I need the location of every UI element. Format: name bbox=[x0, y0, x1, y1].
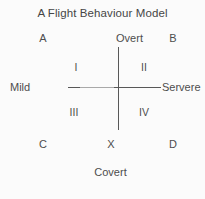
figure-title: A Flight Behaviour Model bbox=[0, 8, 205, 20]
corner-label-b: B bbox=[165, 33, 181, 44]
quadrant-label-i: I bbox=[66, 62, 86, 73]
axis-label-mild: Mild bbox=[10, 82, 30, 93]
horizontal-axis-line bbox=[68, 87, 161, 88]
axis-label-covert: Covert bbox=[8, 167, 205, 178]
corner-label-c: C bbox=[35, 139, 51, 150]
quadrant-label-iv: IV bbox=[134, 107, 154, 118]
axis-label-servere: Servere bbox=[162, 82, 201, 93]
quadrant-label-ii: II bbox=[134, 62, 154, 73]
flight-behaviour-model-figure: A Flight Behaviour Model Overt Covert Mi… bbox=[0, 0, 205, 199]
vertical-axis-line bbox=[118, 47, 119, 130]
quadrant-label-iii: III bbox=[64, 107, 84, 118]
corner-label-a: A bbox=[35, 33, 51, 44]
corner-label-x: X bbox=[103, 139, 119, 150]
corner-label-d: D bbox=[165, 139, 181, 150]
